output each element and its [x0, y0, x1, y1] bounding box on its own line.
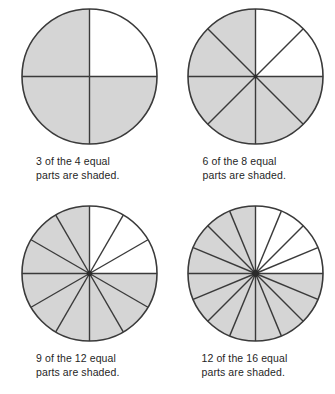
- circle-center-hub: [86, 271, 92, 277]
- caption-circle-4-parts: 3 of the 4 equal parts are shaded.: [36, 155, 144, 182]
- circle-model-12-parts: [20, 204, 159, 343]
- circle-model-4-parts: [20, 7, 159, 146]
- caption-circle-16-parts: 12 of the 16 equal parts are shaded.: [202, 352, 310, 379]
- circle-model-8-parts: [186, 7, 325, 146]
- fraction-circles-grid: 3 of the 4 equal parts are shaded. 6 of …: [0, 0, 335, 394]
- circle-model-16-parts: [186, 204, 325, 343]
- circle-svg-8-parts: [186, 7, 325, 146]
- figure-circle-12-parts: 9 of the 12 equal parts are shaded.: [0, 197, 174, 394]
- figure-circle-4-parts: 3 of the 4 equal parts are shaded.: [0, 0, 174, 197]
- caption-circle-8-parts: 6 of the 8 equal parts are shaded.: [203, 155, 311, 182]
- sector-shaded: [22, 9, 90, 77]
- circle-svg-4-parts: [20, 7, 159, 146]
- sector-shaded: [89, 77, 157, 145]
- sector-unshaded: [89, 9, 157, 77]
- circle-center-hub: [252, 270, 259, 277]
- figure-circle-8-parts: 6 of the 8 equal parts are shaded.: [174, 0, 335, 197]
- circle-svg-12-parts: [20, 204, 159, 343]
- circle-center-hub: [254, 75, 258, 79]
- caption-circle-12-parts: 9 of the 12 equal parts are shaded.: [36, 352, 144, 379]
- circle-svg-16-parts: [186, 204, 325, 343]
- sector-shaded: [22, 77, 90, 145]
- figure-circle-16-parts: 12 of the 16 equal parts are shaded.: [174, 197, 335, 394]
